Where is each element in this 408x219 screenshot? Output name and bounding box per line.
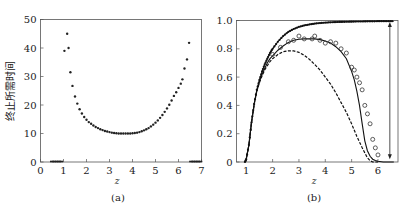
series-circle-marker	[363, 103, 367, 107]
series-marker	[391, 20, 393, 22]
series-marker	[286, 32, 288, 34]
data-point	[99, 128, 101, 130]
series-circle-marker	[371, 137, 375, 141]
data-point	[122, 132, 124, 134]
data-point	[97, 127, 99, 129]
data-point	[76, 102, 78, 104]
data-point	[138, 131, 140, 133]
data-point	[63, 50, 65, 52]
data-point	[159, 117, 161, 119]
x-tick-label: 7	[198, 165, 204, 176]
data-point	[108, 131, 110, 133]
series-circle-marker	[358, 81, 362, 85]
data-point	[134, 132, 136, 134]
series-line	[245, 39, 394, 162]
chart-b-double-arrow	[388, 22, 392, 159]
arrow-head-up-icon	[388, 22, 392, 27]
x-tick-label: 5	[348, 165, 354, 176]
series-marker	[264, 61, 266, 63]
x-tick-label: 1	[243, 165, 249, 176]
data-point	[145, 128, 147, 130]
series-marker	[266, 58, 268, 60]
series-circle-marker	[365, 112, 369, 116]
data-point	[120, 132, 122, 134]
series-marker	[284, 34, 286, 36]
series-marker	[271, 48, 273, 50]
data-point	[127, 132, 129, 134]
data-point	[150, 125, 152, 127]
x-tick-label: 3	[106, 165, 112, 176]
data-point	[175, 91, 177, 93]
x-tick-label: 0	[37, 165, 43, 176]
chart-a-frame	[41, 20, 202, 163]
data-point	[66, 33, 68, 35]
chart-a-y-label: 终止所需时间	[4, 61, 16, 121]
y-tick-label: 0	[226, 157, 232, 168]
y-tick-label: 0.6	[217, 72, 233, 83]
data-point	[136, 131, 138, 133]
chart-a: 01234567 01020304050 z 终止所需时间 (a)	[4, 14, 205, 203]
data-point	[78, 108, 80, 110]
chart-a-data-points	[50, 33, 202, 163]
series-marker	[275, 43, 277, 45]
y-tick-label: 0.4	[217, 100, 233, 111]
series-circle-marker	[376, 153, 380, 157]
data-point	[74, 95, 76, 97]
x-tick-label: 1	[60, 165, 66, 176]
data-point	[141, 130, 143, 132]
data-point	[113, 132, 115, 134]
data-point	[85, 119, 87, 121]
data-point	[170, 99, 172, 101]
chart-a-x-label: z	[114, 176, 120, 186]
figure: 01234567 01020304050 z 终止所需时间 (a) 123456…	[0, 0, 408, 219]
x-tick-label: 6	[375, 165, 381, 176]
data-point	[129, 132, 131, 134]
x-tick-label: 3	[296, 165, 302, 176]
arrow-head-down-icon	[388, 154, 392, 159]
x-tick-label: 5	[152, 165, 158, 176]
y-tick-label: 50	[24, 14, 37, 25]
series-circle-marker	[323, 41, 327, 45]
y-tick-label: 1.0	[217, 15, 233, 26]
y-tick-label: 20	[24, 100, 37, 111]
data-point	[115, 132, 117, 134]
data-point	[111, 131, 113, 133]
series-marker	[267, 56, 269, 58]
y-tick-label: 0.2	[217, 128, 233, 139]
data-point	[154, 121, 156, 123]
data-point	[131, 132, 133, 134]
data-point	[88, 121, 90, 123]
data-point	[59, 161, 63, 163]
data-point	[173, 95, 175, 97]
series-circle-marker	[297, 34, 301, 38]
series-marker	[282, 35, 284, 37]
series-marker	[273, 45, 275, 47]
series-marker	[277, 41, 279, 43]
data-point	[143, 129, 145, 131]
data-point	[177, 87, 179, 89]
data-point	[181, 78, 183, 80]
data-point	[198, 161, 202, 163]
y-tick-label: 10	[24, 128, 37, 139]
data-point	[101, 129, 103, 131]
chart-b-x-ticks: 123456	[243, 159, 381, 176]
series-circle-marker	[334, 41, 338, 45]
data-point	[152, 123, 154, 125]
chart-b-x-label: z	[311, 176, 317, 186]
x-tick-label: 4	[322, 165, 328, 176]
series-circle-marker	[360, 88, 364, 92]
data-point	[168, 104, 170, 106]
series-marker	[263, 66, 265, 68]
data-point	[164, 111, 166, 113]
series-circle-marker	[355, 75, 359, 79]
x-tick-label: 6	[175, 165, 181, 176]
series-marker	[265, 59, 267, 61]
chart-b-y-ticks: 00.20.40.60.81.0	[217, 15, 240, 168]
data-point	[83, 116, 85, 118]
data-point	[161, 114, 163, 116]
data-point	[67, 47, 69, 49]
series-marker	[264, 63, 266, 65]
data-point	[147, 127, 149, 129]
data-point	[104, 130, 106, 132]
series-marker	[279, 39, 281, 41]
